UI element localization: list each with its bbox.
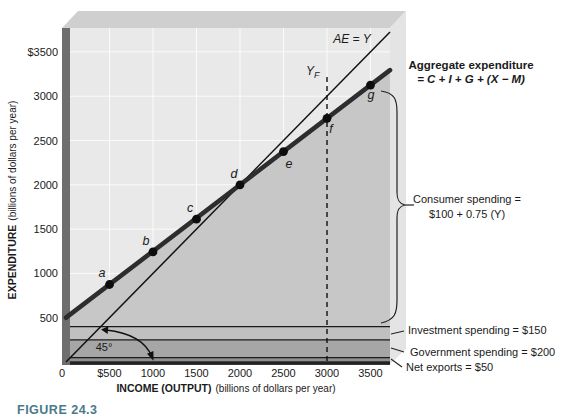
y-tick-1500: 1500 bbox=[34, 223, 58, 235]
point-g-label: g bbox=[368, 88, 375, 102]
slab-right-face bbox=[390, 11, 406, 364]
aggregate-expenditure-formula: = C + I + G + (X − M) bbox=[417, 73, 525, 85]
x-axis-title: INCOME (OUTPUT)(billions of dollars per … bbox=[116, 382, 335, 394]
point-b-dot bbox=[149, 248, 158, 257]
y-tick-3500: $3500 bbox=[27, 46, 58, 58]
y-tick-3000: 3000 bbox=[34, 90, 58, 102]
x-tick-2000: 2000 bbox=[228, 367, 252, 379]
x-axis-tick-labels: 0 $500 1000 1500 2000 2500 3000 3500 bbox=[59, 367, 383, 379]
government-spending-label: Government spending = $200 bbox=[410, 346, 555, 358]
x-tick-500: $500 bbox=[97, 367, 121, 379]
consumer-spending-formula: $100 + 0.75 (Y) bbox=[429, 208, 505, 220]
x-tick-1500: 1500 bbox=[184, 367, 208, 379]
x-tick-3500: 3500 bbox=[358, 367, 382, 379]
aggregate-expenditure-label: Aggregate expenditure bbox=[408, 59, 533, 71]
net-exports-leader-line bbox=[391, 359, 402, 367]
angle-value-label: 45° bbox=[96, 341, 113, 353]
point-d-dot bbox=[236, 180, 245, 189]
point-c-label: c bbox=[187, 201, 194, 215]
x-tick-3000: 3000 bbox=[315, 367, 339, 379]
slab-top-face bbox=[62, 11, 406, 28]
consumer-spending-label: Consumer spending = bbox=[413, 193, 521, 205]
point-d-label: d bbox=[231, 167, 239, 181]
y-tick-500: 500 bbox=[40, 312, 58, 324]
y-axis-title: EXPENDITURE(billions of dollars per year… bbox=[6, 101, 18, 300]
y-tick-1000: 1000 bbox=[34, 267, 58, 279]
point-a-dot bbox=[105, 280, 114, 289]
ae-equals-y-label: AE = Y bbox=[332, 32, 371, 46]
x-tick-0: 0 bbox=[59, 367, 65, 379]
point-e-dot bbox=[279, 147, 288, 156]
y-axis-tick-labels: $3500 3000 2500 2000 1500 1000 500 bbox=[27, 46, 58, 324]
investment-spending-band bbox=[66, 327, 390, 340]
point-e-label: e bbox=[286, 157, 293, 171]
figure-number-label: FIGURE 24.3 bbox=[17, 403, 98, 417]
government-spending-band bbox=[66, 340, 390, 358]
x-tick-2500: 2500 bbox=[271, 367, 295, 379]
net-exports-label: Net exports = $50 bbox=[406, 361, 493, 373]
investment-spending-label: Investment spending = $150 bbox=[408, 324, 547, 336]
point-c-dot bbox=[192, 215, 201, 224]
y-tick-2500: 2500 bbox=[34, 135, 58, 147]
point-a-label: a bbox=[99, 266, 106, 280]
x-axis-spine bbox=[62, 361, 390, 365]
x-tick-1000: 1000 bbox=[141, 367, 165, 379]
point-b-label: b bbox=[143, 234, 150, 248]
y-tick-2000: 2000 bbox=[34, 179, 58, 191]
